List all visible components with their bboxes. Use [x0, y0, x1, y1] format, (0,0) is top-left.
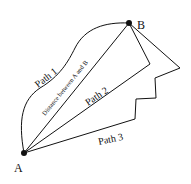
point-a-label: A — [14, 161, 23, 175]
path-3-label: Path 3 — [97, 131, 124, 147]
path-diagram: A B Path 1 Path 2 Path 3 Distance betwee… — [0, 0, 191, 184]
path-1-label: Path 1 — [32, 65, 59, 89]
point-b-marker — [126, 20, 132, 26]
path-2-label: Path 2 — [83, 84, 110, 107]
point-b-label: B — [137, 18, 145, 32]
point-a-marker — [21, 150, 27, 156]
distance-label: Distance between A and B — [40, 58, 89, 116]
